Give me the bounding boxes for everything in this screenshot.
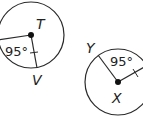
radius-left-to-v [31, 35, 37, 68]
angle-label-left: 95° [5, 44, 28, 59]
center-point-t [28, 32, 34, 38]
label-v: V [32, 72, 43, 88]
label-y: Y [86, 40, 96, 56]
center-point-x [115, 79, 121, 85]
angle-label-right: 95° [110, 54, 133, 69]
circle-left: T 95° V [0, 2, 64, 88]
radius-left-horizontal [0, 35, 31, 40]
circles-diagram: T 95° V Y 95° X [0, 0, 143, 119]
label-t: T [36, 16, 46, 32]
label-x: X [111, 90, 122, 106]
circle-right: Y 95° X [85, 40, 143, 115]
tick-mark-left [30, 52, 38, 53]
